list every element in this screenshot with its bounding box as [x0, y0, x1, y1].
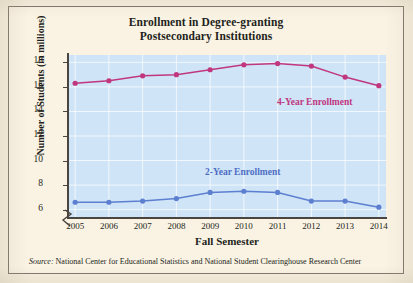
y-tick-mark: [63, 111, 68, 112]
y-tick-label: 6: [3, 203, 43, 213]
data-point: [106, 200, 111, 205]
y-tick-mark: [63, 210, 68, 211]
source-text: National Center for Educational Statisti…: [56, 257, 362, 266]
series-line-four-year: [75, 64, 379, 86]
x-axis-line: [68, 217, 387, 219]
data-point: [343, 198, 348, 203]
chart-title-line-2: Postsecondary Institutions: [9, 30, 403, 44]
data-point: [106, 78, 111, 83]
data-point: [275, 190, 280, 195]
x-axis-title: Fall Semester: [68, 235, 386, 247]
data-point: [208, 67, 213, 72]
y-tick-label: 16: [3, 80, 43, 90]
y-tick-mark: [63, 62, 68, 63]
data-point: [73, 81, 78, 86]
y-tick-label: 18: [3, 55, 43, 65]
data-point: [309, 63, 314, 68]
series-label-two-year: 2-Year Enrollment: [205, 167, 280, 177]
data-point: [73, 200, 78, 205]
y-tick-mark: [63, 161, 68, 162]
data-point: [208, 190, 213, 195]
chart-page: Enrollment in Degree-granting Postsecond…: [0, 0, 413, 283]
chart-title: Enrollment in Degree-granting Postsecond…: [9, 16, 403, 43]
plot-area: [68, 55, 386, 217]
y-tick-label: 14: [3, 104, 43, 114]
data-point: [275, 61, 280, 66]
data-point: [343, 74, 348, 79]
chart-title-line-1: Enrollment in Degree-granting: [9, 16, 403, 30]
data-point: [241, 62, 246, 67]
data-point: [140, 73, 145, 78]
data-point: [376, 205, 381, 210]
data-point: [309, 198, 314, 203]
y-tick-label: 10: [3, 154, 43, 164]
y-tick-label: 12: [3, 129, 43, 139]
y-tick-mark: [63, 185, 68, 186]
y-tick-label: 8: [3, 178, 43, 188]
series-label-four-year: 4-Year Enrollment: [277, 97, 352, 107]
source-note: Source: National Center for Educational …: [29, 257, 361, 266]
data-point: [174, 72, 179, 77]
x-tick-label: 2014: [359, 221, 399, 231]
series-line-two-year: [75, 191, 379, 207]
y-tick-mark: [63, 136, 68, 137]
source-label: Source:: [29, 257, 54, 266]
series-lines: [68, 55, 386, 217]
data-point: [241, 189, 246, 194]
data-point: [376, 83, 381, 88]
data-point: [174, 196, 179, 201]
y-tick-mark: [63, 87, 68, 88]
chart-frame: Enrollment in Degree-granting Postsecond…: [8, 6, 404, 274]
data-point: [140, 198, 145, 203]
